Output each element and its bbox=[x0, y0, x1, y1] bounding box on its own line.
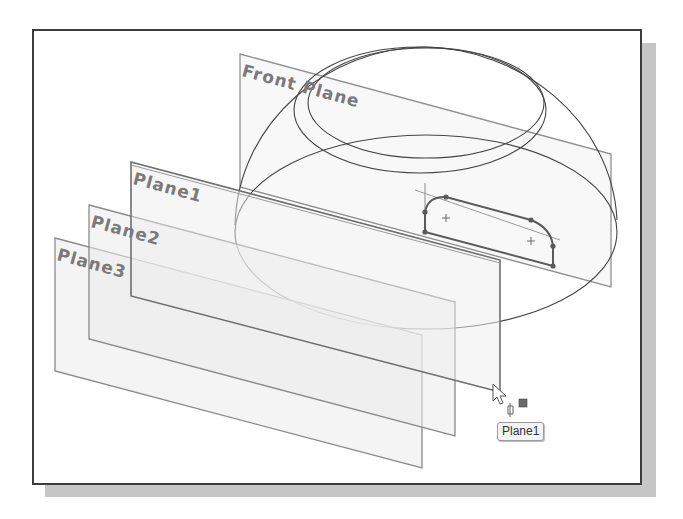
tooltip: Plane1 bbox=[497, 422, 544, 441]
plane-select-icon bbox=[508, 399, 527, 417]
graphics-area: Front Plane Plane1 Plane2 Plane3 Plane1 bbox=[0, 0, 683, 519]
model-view: Front Plane Plane1 Plane2 Plane3 bbox=[0, 0, 683, 519]
